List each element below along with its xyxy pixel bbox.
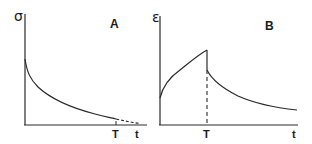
figure: σ A T t ε B T t: [0, 0, 312, 144]
marker-label-a: T: [112, 128, 119, 140]
x-axis-label-a: t: [135, 128, 139, 140]
panel-label-b: B: [265, 19, 274, 33]
recovery-curve: [207, 70, 297, 110]
relaxation-curve-dashed-tail: [116, 119, 140, 124]
x-axis-label-b: t: [292, 128, 296, 140]
panel-b: ε B T t: [152, 9, 298, 140]
panel-a: σ A T t: [14, 8, 147, 140]
creep-curve: [160, 50, 207, 98]
y-axis-label-a: σ: [14, 8, 23, 24]
marker-label-b: T: [203, 128, 210, 140]
relaxation-curve: [25, 59, 116, 119]
y-axis-label-b: ε: [152, 9, 160, 25]
panel-label-a: A: [110, 17, 119, 31]
